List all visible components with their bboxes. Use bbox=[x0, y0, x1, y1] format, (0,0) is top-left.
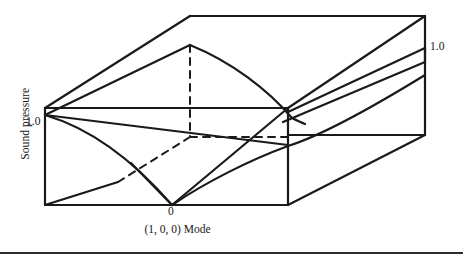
box-bottom-right-receding-edge bbox=[288, 135, 425, 205]
left-amplitude-label: 1.0 bbox=[26, 116, 40, 128]
box-top-right-receding-edge bbox=[288, 16, 425, 108]
mode-nodal-left-converging-line bbox=[131, 163, 172, 205]
mode-curve-front-right-rising bbox=[172, 146, 288, 205]
origin-zero-label: 0 bbox=[168, 206, 174, 218]
figure-container: Sound pressure 1.0 1.0 0 (1, 0, 0) Mode bbox=[0, 0, 463, 263]
box-top-left-receding-edge bbox=[45, 16, 190, 108]
right-amplitude-label: 1.0 bbox=[430, 41, 444, 53]
mode-rule-line-right-lower bbox=[283, 62, 425, 122]
mode-rule-line-back-to-front-left bbox=[45, 45, 190, 115]
hidden-bottom-left-receding-edge-dashed bbox=[118, 137, 190, 182]
floor-left-front-segment bbox=[45, 182, 118, 205]
bottom-divider-rule bbox=[0, 252, 463, 254]
mode-rule-line-right-upper bbox=[288, 48, 425, 112]
mode-curve-back-to-right-join bbox=[292, 118, 305, 124]
figure-caption: (1, 0, 0) Mode bbox=[0, 224, 355, 236]
